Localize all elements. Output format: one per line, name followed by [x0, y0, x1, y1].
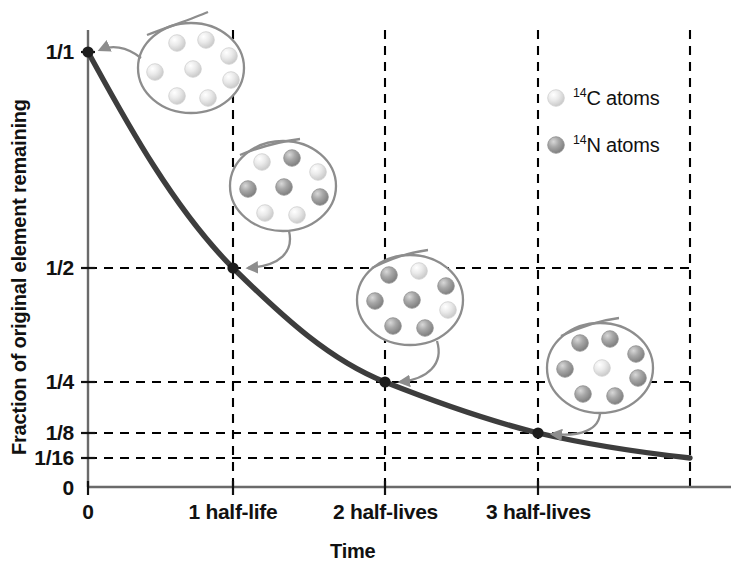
carbon-atom — [594, 360, 611, 377]
nitrogen-atom — [381, 267, 398, 284]
data-point-0 — [82, 46, 93, 57]
data-point-2 — [379, 376, 390, 387]
carbon-atom — [185, 61, 202, 78]
sample-circle-2 — [357, 250, 463, 382]
x-tick-label-2-half-lives: 2 half-lives — [298, 500, 473, 524]
nitrogen-atom — [367, 293, 384, 310]
sample-circle-1-pointer — [248, 231, 290, 268]
sample-circle-3-pointer — [552, 412, 600, 435]
carbon-atom — [440, 302, 457, 319]
legend-marker-nitrogen-icon — [548, 137, 565, 154]
carbon-atom — [257, 205, 274, 222]
sample-circle-3 — [547, 318, 653, 435]
legend-carbon-symbol: C — [586, 87, 600, 109]
data-points — [82, 46, 543, 438]
legend-markers — [548, 90, 565, 154]
legend-nitrogen-mass-number: 14 — [573, 133, 586, 147]
carbon-atom — [169, 88, 186, 105]
nitrogen-atom — [572, 335, 589, 352]
x-tick-label-3-half-lives: 3 half-lives — [451, 500, 626, 524]
nitrogen-atom — [417, 320, 434, 337]
nitrogen-atom — [240, 181, 257, 198]
legend-marker-carbon-icon — [548, 90, 565, 107]
nitrogen-atom — [607, 388, 624, 405]
data-point-3 — [532, 427, 543, 438]
legend-carbon-suffix: atoms — [601, 87, 660, 109]
sample-circle-2-pointer — [400, 341, 439, 382]
nitrogen-atom — [628, 346, 645, 363]
nitrogen-atom — [602, 331, 619, 348]
x-tick-label-1-half-life: 1 half-life — [148, 500, 318, 524]
sample-circle-0-pointer — [100, 47, 141, 58]
nitrogen-atom — [575, 386, 592, 403]
carbon-atom — [223, 72, 240, 89]
x-tick-label-0: 0 — [58, 500, 118, 524]
nitrogen-atom — [276, 179, 293, 196]
nitrogen-atom — [630, 370, 647, 387]
nitrogen-atom — [312, 189, 329, 206]
y-tick-label-0: 0 — [14, 476, 74, 500]
data-point-1 — [227, 262, 238, 273]
nitrogen-atom — [385, 318, 402, 335]
legend-entry-nitrogen-label: 14N atoms — [573, 133, 659, 157]
carbon-atom — [411, 263, 428, 280]
carbon-atom — [221, 48, 238, 65]
carbon-atom — [310, 164, 327, 181]
decay-chart-figure: 1/1 1/2 1/4 1/8 1/16 0 0 1 half-life 2 h… — [0, 0, 731, 580]
nitrogen-atom — [438, 278, 455, 295]
legend-nitrogen-symbol: N — [586, 134, 600, 156]
x-axis-title: Time — [330, 540, 376, 563]
legend-entry-carbon-label: 14C atoms — [573, 86, 659, 110]
y-axis-title: Fraction of original element remaining — [8, 99, 31, 455]
carbon-atom — [200, 90, 217, 107]
sample-circle-0 — [100, 12, 244, 113]
legend-carbon-mass-number: 14 — [573, 86, 586, 100]
nitrogen-atom — [284, 150, 301, 167]
carbon-atom — [198, 32, 215, 49]
carbon-atom — [169, 35, 186, 52]
nitrogen-atom — [557, 361, 574, 378]
y-tick-label-1-1: 1/1 — [14, 40, 74, 64]
nitrogen-atom — [404, 292, 421, 309]
sample-circle-1 — [230, 139, 336, 268]
legend-nitrogen-suffix: atoms — [601, 134, 660, 156]
carbon-atom — [254, 154, 271, 171]
carbon-atom — [289, 207, 306, 224]
carbon-atom — [147, 64, 164, 81]
